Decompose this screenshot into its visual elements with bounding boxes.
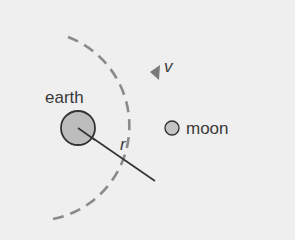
orbit-diagram: earth moon r v	[0, 0, 295, 240]
radius-label: r	[120, 135, 127, 154]
moon-label: moon	[186, 119, 229, 138]
velocity-arrow-icon	[150, 65, 160, 80]
velocity-label: v	[164, 57, 174, 76]
diagram-svg: earth moon r v	[0, 0, 295, 240]
earth-label: earth	[45, 88, 84, 107]
moon-circle	[165, 121, 179, 135]
